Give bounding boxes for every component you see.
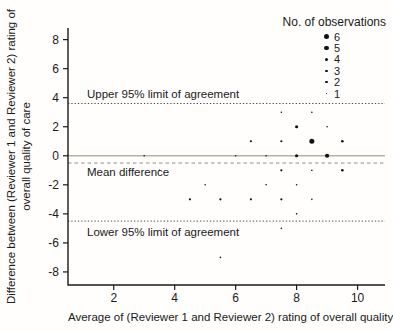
data-point: [281, 228, 283, 230]
y-axis-label-line1: Difference between (Reviewer 1 and Revie…: [4, 9, 19, 304]
data-point: [296, 184, 298, 186]
data-point: [296, 213, 298, 215]
legend-dot-cell: [322, 93, 331, 95]
data-point: [311, 169, 313, 171]
legend-row: 2: [322, 77, 344, 88]
upper-limit-annotation: Upper 95% limit of agreement: [87, 88, 239, 100]
data-point: [143, 155, 145, 157]
legend-row: 5: [322, 42, 344, 53]
x-tick-label: 8: [293, 291, 300, 305]
data-point: [235, 155, 237, 157]
legend-row: 3: [322, 65, 344, 76]
data-point: [189, 198, 191, 200]
legend-dot-icon: [326, 93, 328, 95]
bland-altman-figure: -8-6-4-202468246810 Difference between (…: [0, 0, 393, 331]
legend-dot-cell: [322, 70, 331, 73]
data-point: [220, 257, 222, 259]
legend-dot-icon: [325, 58, 328, 61]
legend-rows: 654321: [322, 31, 344, 99]
data-point: [265, 184, 267, 186]
data-point: [326, 126, 328, 128]
legend-dot-cell: [322, 81, 331, 83]
y-tick-label: 2: [52, 120, 59, 134]
x-axis-label: Average of (Reviewer 1 and Reviewer 2) r…: [68, 311, 385, 323]
y-tick-label: 0: [52, 149, 59, 163]
data-point: [325, 154, 329, 158]
y-tick-label: -6: [48, 236, 59, 250]
y-axis-label-line2: overall quality of care: [19, 102, 34, 211]
legend-row: 6: [322, 31, 344, 42]
legend-count-label: 3: [334, 65, 344, 77]
x-tick-label: 6: [232, 291, 239, 305]
data-point: [250, 140, 252, 142]
data-point: [250, 198, 252, 200]
data-point: [311, 199, 313, 201]
mean-difference-annotation: Mean difference: [87, 166, 169, 178]
legend-count-label: 4: [334, 53, 344, 65]
legend-dot-icon: [324, 34, 329, 39]
y-tick-label: -8: [48, 265, 59, 279]
legend-row: 1: [322, 88, 344, 99]
y-tick-label: 4: [52, 91, 59, 105]
x-tick-label: 4: [171, 291, 178, 305]
x-tick-label: 10: [351, 291, 365, 305]
legend-dot-icon: [325, 81, 327, 83]
data-point: [309, 139, 314, 144]
data-point: [311, 111, 313, 113]
y-tick-label: -2: [48, 178, 59, 192]
data-point: [219, 198, 221, 200]
legend-dot-cell: [322, 58, 331, 61]
data-point: [204, 184, 206, 186]
data-point: [281, 111, 283, 113]
legend-title: No. of observations: [283, 15, 386, 29]
data-point: [295, 125, 298, 128]
data-point: [295, 154, 298, 157]
legend-count-label: 5: [334, 42, 344, 54]
legend-dot-cell: [322, 46, 331, 50]
y-tick-label: 6: [52, 62, 59, 76]
x-tick-label: 2: [110, 291, 117, 305]
data-point: [280, 169, 282, 171]
lower-limit-annotation: Lower 95% limit of agreement: [87, 226, 239, 238]
data-point: [280, 198, 282, 200]
y-tick-label: 8: [52, 33, 59, 47]
y-axis-label: Difference between (Reviewer 1 and Revie…: [2, 28, 36, 285]
legend-dot-cell: [322, 34, 331, 39]
legend-count-label: 1: [334, 88, 344, 100]
data-point: [341, 140, 344, 143]
legend-dot-icon: [325, 70, 328, 73]
legend-count-label: 6: [334, 31, 344, 43]
legend-row: 4: [322, 54, 344, 65]
data-point: [341, 169, 344, 172]
legend-dot-icon: [324, 46, 328, 50]
legend: No. of observations 654321: [283, 15, 386, 99]
data-point: [280, 140, 282, 142]
y-tick-label: -4: [48, 207, 59, 221]
data-point: [265, 155, 267, 157]
legend-count-label: 2: [334, 76, 344, 88]
